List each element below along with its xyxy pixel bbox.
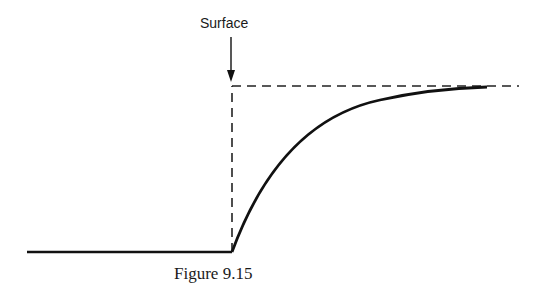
- profile-curve: [232, 87, 487, 252]
- figure-diagram: [0, 0, 549, 298]
- figure-caption: Figure 9.15: [174, 264, 252, 284]
- surface-arrow-head-icon: [227, 70, 235, 82]
- surface-label: Surface: [200, 15, 248, 31]
